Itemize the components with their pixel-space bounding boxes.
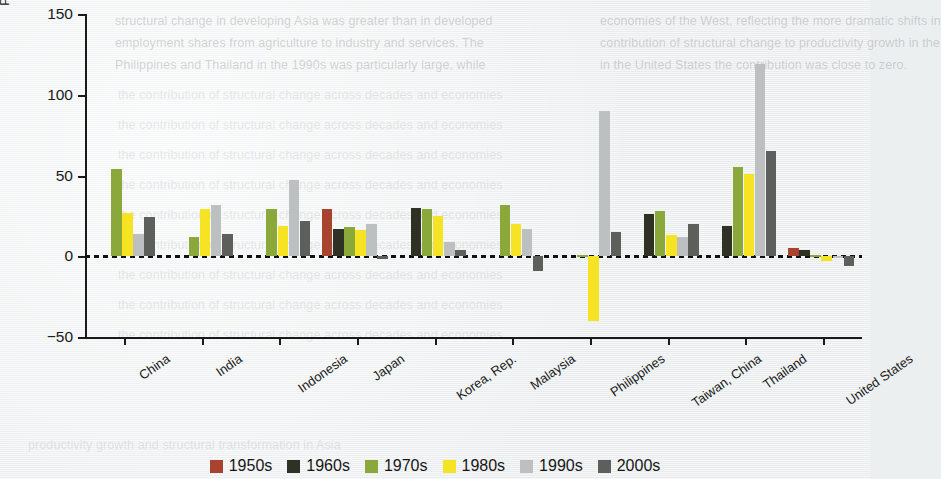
legend-color-swatch xyxy=(287,460,300,473)
x-axis-tick-mark xyxy=(124,337,126,345)
x-axis-tick-label: Thailand xyxy=(760,351,809,392)
y-axis-tick-label: −50 xyxy=(47,328,73,346)
bar xyxy=(500,205,511,257)
y-axis-tick-mark xyxy=(78,14,86,16)
x-axis-tick-label: Korea, Rep. xyxy=(453,351,518,403)
y-axis-title-text: Percentage of productivity growth contri… xyxy=(0,0,28,22)
bar xyxy=(278,226,289,257)
bar xyxy=(222,234,233,257)
bar xyxy=(688,224,699,256)
bar xyxy=(455,250,466,256)
x-axis-tick-mark xyxy=(512,337,514,345)
y-axis-tick-label: 150 xyxy=(47,5,73,23)
y-axis-tick-mark xyxy=(78,176,86,178)
bar xyxy=(344,227,355,256)
legend-item: 1970s xyxy=(365,457,428,475)
bar xyxy=(611,232,622,256)
bar xyxy=(588,256,599,321)
bar xyxy=(366,224,377,256)
legend-item: 1960s xyxy=(287,457,350,475)
y-axis-tick-mark xyxy=(78,95,86,97)
bar xyxy=(788,248,799,256)
x-axis-tick-mark xyxy=(745,337,747,345)
bar xyxy=(266,209,277,256)
x-axis-tick-label: China xyxy=(136,351,172,383)
bar xyxy=(644,214,655,256)
x-axis-tick-mark xyxy=(590,337,592,345)
bar xyxy=(522,229,533,256)
bar xyxy=(599,111,610,256)
bar xyxy=(422,209,433,256)
bar xyxy=(289,180,300,256)
bar xyxy=(377,256,388,259)
x-axis-tick-mark xyxy=(668,337,670,345)
bar xyxy=(333,229,344,256)
legend-color-swatch xyxy=(598,460,611,473)
x-axis-tick-label: Indonesia xyxy=(295,351,350,396)
bar xyxy=(766,151,777,256)
y-axis-tick-label: 0 xyxy=(64,247,73,265)
bar xyxy=(111,169,122,256)
x-axis-tick-label: Japan xyxy=(369,351,407,384)
bar xyxy=(799,250,810,256)
x-axis-tick-mark xyxy=(202,337,204,345)
bar xyxy=(211,205,222,257)
bar xyxy=(189,237,200,256)
bar xyxy=(666,235,677,256)
legend-item: 1950s xyxy=(210,457,273,475)
x-axis-tick-mark xyxy=(357,337,359,345)
legend-color-swatch xyxy=(365,460,378,473)
bar xyxy=(533,256,544,271)
bar xyxy=(655,211,666,256)
x-axis-tick-label: Malaysia xyxy=(528,351,579,393)
y-axis-tick-label: 100 xyxy=(47,86,73,104)
legend-item: 1990s xyxy=(520,457,583,475)
legend-item: 1980s xyxy=(443,457,506,475)
y-axis-title: Percentage of productivity growth contri… xyxy=(0,0,28,22)
bar xyxy=(322,209,333,256)
bar xyxy=(844,256,855,266)
bar xyxy=(355,230,366,256)
bar xyxy=(411,208,422,256)
bar xyxy=(144,217,155,256)
x-axis-tick-label: Taiwan, China xyxy=(689,351,764,410)
bar xyxy=(200,209,211,256)
bar xyxy=(677,237,688,256)
bar xyxy=(577,255,588,257)
bar xyxy=(755,64,766,256)
bar xyxy=(133,234,144,257)
legend-item: 2000s xyxy=(598,457,661,475)
x-axis-tick-mark xyxy=(823,337,825,345)
legend-label: 2000s xyxy=(617,457,661,475)
bar xyxy=(433,216,444,256)
x-axis-tick-mark xyxy=(435,337,437,345)
x-axis-tick-label: India xyxy=(213,351,245,379)
bar xyxy=(122,213,133,257)
bar xyxy=(733,167,744,256)
legend-label: 1950s xyxy=(229,457,273,475)
legend-label: 1990s xyxy=(539,457,583,475)
legend-color-swatch xyxy=(443,460,456,473)
bar xyxy=(744,174,755,256)
x-axis-tick-mark xyxy=(279,337,281,345)
chart-legend: 1950s1960s1970s1980s1990s2000s xyxy=(0,457,870,475)
bar xyxy=(722,226,733,257)
legend-color-swatch xyxy=(520,460,533,473)
legend-color-swatch xyxy=(210,460,223,473)
bar xyxy=(511,224,522,256)
y-axis-tick-label: 50 xyxy=(56,167,73,185)
bar xyxy=(810,255,821,257)
legend-label: 1980s xyxy=(462,457,506,475)
x-axis-tick-label: United States xyxy=(843,351,916,408)
bar xyxy=(833,256,844,258)
legend-label: 1960s xyxy=(306,457,350,475)
bar xyxy=(300,221,311,257)
x-axis-tick-label: Philippines xyxy=(607,351,667,399)
bar xyxy=(821,256,832,261)
legend-label: 1970s xyxy=(384,457,428,475)
bar xyxy=(444,242,455,257)
